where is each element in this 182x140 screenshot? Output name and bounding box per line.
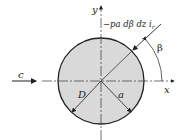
force-label: −pa dβ dz ir	[103, 19, 156, 30]
radius-label: a	[118, 89, 124, 100]
angle-label: β	[157, 42, 163, 53]
x-axis-label: x	[164, 84, 170, 95]
y-axis-label: y	[91, 4, 98, 15]
flow-label: c	[18, 69, 24, 80]
cylinder-pressure-diagram: y x c −pa dβ dz ir β D a	[0, 0, 182, 140]
force-text: −pa dβ dz i	[103, 19, 152, 29]
diameter-label: D	[77, 89, 86, 100]
